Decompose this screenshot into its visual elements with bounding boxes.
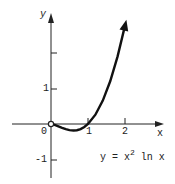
equation-tail: ln x <box>141 152 165 163</box>
origin-label: 0 <box>41 127 47 137</box>
y-axis-label: y <box>40 10 46 20</box>
x-axis-arrow-icon <box>155 121 164 127</box>
x-tick-label-1: 1 <box>86 127 92 137</box>
x-tick-label-2: 2 <box>122 127 128 137</box>
equation-main: y = x <box>100 152 130 163</box>
origin-open-circle <box>48 121 53 126</box>
y-tick-label-1: 1 <box>43 84 49 94</box>
equation-label: y = x2ln x <box>100 148 165 163</box>
curve-arrow-icon <box>120 20 129 32</box>
y-axis-arrow-icon <box>48 13 54 23</box>
equation-exponent: 2 <box>130 148 135 157</box>
y-tick-label-neg1: -1 <box>35 155 47 165</box>
curve-x2-lnx <box>51 26 125 131</box>
x-axis-label: x <box>157 129 163 139</box>
